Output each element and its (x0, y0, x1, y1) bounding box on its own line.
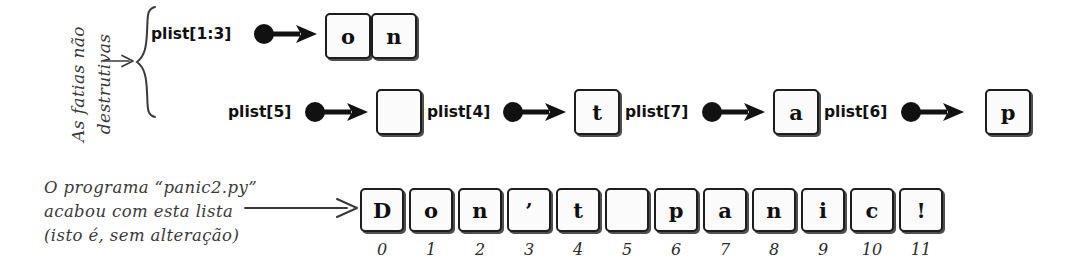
diagram-canvas: As fatias não destrutivas plist[1:3] o n… (0, 0, 1077, 266)
list-index-11: 11 (899, 240, 943, 259)
pointer-arrow-plist-4 (503, 101, 567, 123)
list-cell-2: n (458, 188, 502, 232)
pointer-label-plist-1-3: plist[1:3] (151, 25, 231, 43)
list-index-1: 1 (409, 240, 453, 259)
list-index-5: 5 (605, 240, 649, 259)
bottom-annotation: O programa “panic2.py” acabou com esta l… (44, 176, 257, 248)
list-cell-11: ! (899, 188, 943, 232)
row1-cell-1: n (371, 13, 417, 59)
list-cell-8: n (752, 188, 796, 232)
row2-cell-plist-5 (376, 89, 422, 135)
list-cell-10: c (850, 188, 894, 232)
list-cell-6: p (654, 188, 698, 232)
list-index-4: 4 (556, 240, 600, 259)
left-annotation-line1: As fatias não (65, 0, 91, 179)
list-index-0: 0 (360, 240, 404, 259)
long-arrow-right-icon (243, 196, 361, 220)
pointer-label-plist-5: plist[5] (228, 103, 291, 121)
list-index-6: 6 (654, 240, 698, 259)
list-index-10: 10 (850, 240, 894, 259)
list-cell-4: t (556, 188, 600, 232)
bottom-annotation-line3: (isto é, sem alteração) (44, 224, 257, 248)
left-annotation-line2: destrutivas (91, 0, 117, 179)
list-index-3: 3 (507, 240, 551, 259)
pointer-arrow-plist-1-3 (254, 23, 318, 45)
pointer-arrow-plist-7 (702, 101, 766, 123)
list-cell-1: o (409, 188, 453, 232)
bottom-annotation-line2: acabou com esta lista (44, 200, 257, 224)
list-cell-5 (605, 188, 649, 232)
pointer-label-plist-6: plist[6] (824, 103, 887, 121)
row2-cell-plist-4: t (574, 89, 620, 135)
pointer-arrow-plist-5 (305, 101, 369, 123)
bottom-annotation-line1: O programa “panic2.py” (44, 176, 257, 200)
list-index-8: 8 (752, 240, 796, 259)
row2-cell-plist-6: p (985, 89, 1031, 135)
row1-cell-0: o (325, 13, 371, 59)
pointer-label-plist-7: plist[7] (625, 103, 688, 121)
list-index-2: 2 (458, 240, 502, 259)
row2-cell-plist-7: a (773, 89, 819, 135)
list-cell-7: a (703, 188, 747, 232)
list-cell-9: i (801, 188, 845, 232)
arrow-right-icon (103, 54, 137, 68)
list-index-9: 9 (801, 240, 845, 259)
pointer-label-plist-4: plist[4] (427, 103, 490, 121)
pointer-arrow-plist-6 (901, 101, 965, 123)
list-cell-3: ’ (507, 188, 551, 232)
list-cell-0: D (360, 188, 404, 232)
list-index-7: 7 (703, 240, 747, 259)
curly-brace-icon (133, 4, 159, 120)
